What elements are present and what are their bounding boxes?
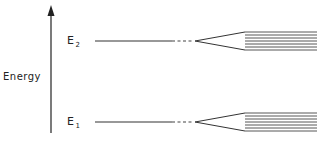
- level-label-e2-base: E: [67, 34, 74, 47]
- level-label-e2: E2: [67, 34, 80, 47]
- band-e1: [245, 113, 317, 131]
- level-e2: [95, 32, 317, 50]
- level-label-e1: E1: [67, 115, 80, 128]
- level-label-e1-subscript: 1: [75, 122, 80, 130]
- energy-level-diagram: [0, 0, 325, 142]
- axis-label: Energy: [3, 71, 41, 82]
- level-e1: [95, 113, 317, 131]
- energy-axis: [48, 5, 55, 133]
- arrow-up-icon: [48, 5, 55, 16]
- level-label-e1-base: E: [67, 115, 74, 128]
- band-e2: [245, 32, 317, 50]
- level-label-e2-subscript: 2: [75, 41, 80, 49]
